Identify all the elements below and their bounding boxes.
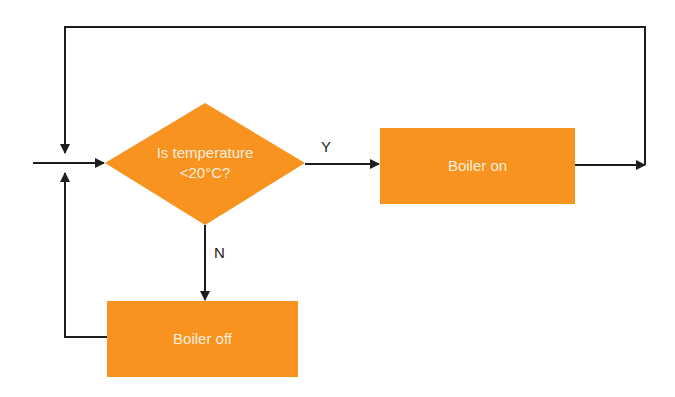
decision-label-line1: Is temperature — [157, 143, 254, 163]
decision-label-line2: <20°C? — [180, 163, 231, 183]
boiler-off-label: Boiler off — [173, 329, 232, 349]
flowchart-canvas: Is temperature <20°C? Boiler on Boiler o… — [0, 0, 675, 397]
boiler-off-label-wrap: Boiler off — [107, 301, 298, 377]
no-edge-label: N — [214, 245, 225, 261]
boiler-on-label: Boiler on — [448, 156, 507, 176]
left-loop-line — [65, 173, 107, 337]
decision-node: Is temperature <20°C? — [125, 138, 285, 188]
boiler-on-label-wrap: Boiler on — [380, 128, 575, 204]
yes-edge-label: Y — [321, 139, 331, 155]
